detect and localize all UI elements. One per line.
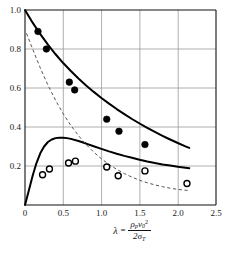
xtick-label-0: 0 xyxy=(23,208,28,218)
data-series-layer xyxy=(25,10,190,205)
xtick-label-1.0: 1.0 xyxy=(96,208,108,218)
ytick-label-0.8: 0.8 xyxy=(10,44,22,54)
equals-symbol: = xyxy=(120,225,125,235)
chart-container: 1.0 0.8 0.6 0.4 0.2 0 0.5 1.0 1.5 2.0 2.… xyxy=(0,0,229,254)
data-point-filled xyxy=(116,128,123,135)
data-point-filled xyxy=(103,116,110,123)
velocity-exponent: 2 xyxy=(145,219,148,225)
xtick-label-1.5: 1.5 xyxy=(134,208,146,218)
ytick-label-0.6: 0.6 xyxy=(10,83,22,93)
xtick-label-0.5: 0.5 xyxy=(58,208,70,218)
x-tick-labels: 0 0.5 1.0 1.5 2.0 2.5 xyxy=(23,208,222,218)
x-axis-formula-label: λ = ρpv02 2σT xyxy=(62,219,202,242)
data-point-open xyxy=(142,168,148,174)
xtick-label-2.0: 2.0 xyxy=(173,208,185,218)
data-point-open xyxy=(115,173,121,179)
data-point-filled xyxy=(66,79,73,86)
data-point-open xyxy=(46,166,52,172)
scatter-plot-svg: 1.0 0.8 0.6 0.4 0.2 0 0.5 1.0 1.5 2.0 2.… xyxy=(0,0,229,254)
formula-fraction: ρpv02 2σT xyxy=(128,219,151,242)
data-point-open xyxy=(40,172,46,178)
data-point-filled xyxy=(35,28,42,35)
xtick-label-2.5: 2.5 xyxy=(210,208,222,218)
data-point-open xyxy=(66,160,72,166)
data-point-filled xyxy=(71,87,78,94)
formula-numerator: ρpv02 xyxy=(128,219,151,230)
data-point-open xyxy=(72,158,78,164)
ytick-label-1.0: 1.0 xyxy=(10,5,22,15)
data-point-open xyxy=(104,164,110,170)
data-point-open xyxy=(184,181,190,187)
sigma-subscript: T xyxy=(142,236,145,242)
ytick-label-0.4: 0.4 xyxy=(10,122,22,132)
data-point-filled xyxy=(43,46,50,53)
open-circle-data xyxy=(40,158,190,186)
lambda-symbol: λ xyxy=(113,225,117,236)
formula-denominator: 2σT xyxy=(130,231,148,242)
ytick-label-0.2: 0.2 xyxy=(10,161,21,171)
y-tick-labels: 1.0 0.8 0.6 0.4 0.2 xyxy=(10,5,22,171)
data-point-filled xyxy=(142,141,149,148)
